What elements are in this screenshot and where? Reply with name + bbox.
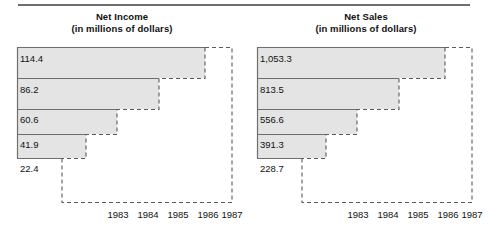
figure-root: Net Income (in millions of dollars) (0, 0, 488, 235)
year-label-1985: 1985 (401, 210, 435, 220)
bar-1987 (17, 47, 205, 78)
value-label-1983: 228.7 (260, 164, 284, 174)
value-label-1983: 22.4 (20, 164, 39, 174)
value-label-1985: 556.6 (260, 115, 284, 125)
value-label-1987: 1,053.3 (260, 54, 292, 64)
chart-panel-net-sales: Net Sales (in millions of dollars) (244, 0, 488, 235)
chart-panel-net-income: Net Income (in millions of dollars) (0, 0, 244, 235)
year-label-1985: 1985 (161, 210, 195, 220)
year-label-1987: 1987 (455, 210, 488, 220)
value-label-1985: 60.6 (20, 115, 39, 125)
value-label-1984: 391.3 (260, 140, 284, 150)
year-label-1983: 1983 (341, 210, 375, 220)
value-label-1986: 86.2 (20, 85, 39, 95)
bars-group-net-income (17, 47, 205, 158)
value-label-1984: 41.9 (20, 140, 39, 150)
year-label-1983: 1983 (101, 210, 135, 220)
value-label-1987: 114.4 (20, 54, 43, 64)
value-label-1986: 813.5 (260, 85, 284, 95)
year-label-1984: 1984 (371, 210, 405, 220)
year-label-1984: 1984 (131, 210, 165, 220)
